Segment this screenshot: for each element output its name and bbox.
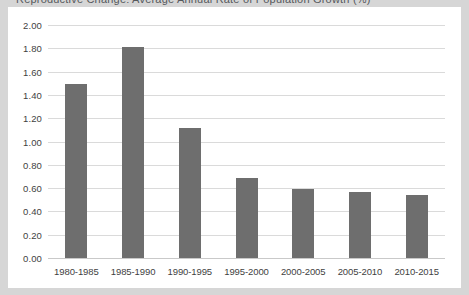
bar: [236, 178, 258, 258]
bar: [179, 128, 201, 258]
chart-figure: Reproductive Change: Average Annual Rate…: [0, 0, 469, 295]
y-axis-tick-label: 1.80: [23, 43, 42, 54]
y-axis-tick-label: 0.20: [23, 229, 42, 240]
x-axis-tick-label: 1980-1985: [54, 266, 99, 277]
y-axis-tick-label: 1.60: [23, 66, 42, 77]
x-axis-tick-label: 2010-2015: [394, 266, 439, 277]
chart-title-text: Reproductive Change: Average Annual Rate…: [8, 0, 371, 5]
bar: [349, 192, 371, 258]
x-axis-tick-label: 1990-1995: [168, 266, 213, 277]
x-axis-tick-label: 2005-2010: [338, 266, 383, 277]
y-axis-tick-label: 1.20: [23, 113, 42, 124]
axis-baseline: [48, 258, 445, 259]
x-axis-tick-label: 2000-2005: [281, 266, 326, 277]
x-axis-tick-label: 1995-2000: [224, 266, 269, 277]
y-axis-tick-label: 1.40: [23, 89, 42, 100]
plot-inner: 0.000.200.400.600.801.001.201.401.601.80…: [48, 25, 445, 258]
bar: [406, 195, 428, 258]
x-axis-tick-label: 1985-1990: [111, 266, 156, 277]
y-axis-tick-label: 0.80: [23, 159, 42, 170]
y-axis-tick-label: 0.40: [23, 206, 42, 217]
y-axis-tick-label: 0.00: [23, 253, 42, 264]
chart-title-clipped: Reproductive Change: Average Annual Rate…: [0, 0, 469, 6]
bar: [292, 189, 314, 258]
chart-plot-area: 0.000.200.400.600.801.001.201.401.601.80…: [8, 7, 461, 288]
y-axis-tick-label: 1.00: [23, 136, 42, 147]
bar: [122, 47, 144, 258]
bars-group: [48, 25, 445, 258]
y-axis-tick-label: 2.00: [23, 20, 42, 31]
y-axis-tick-label: 0.60: [23, 183, 42, 194]
bar: [65, 84, 87, 258]
